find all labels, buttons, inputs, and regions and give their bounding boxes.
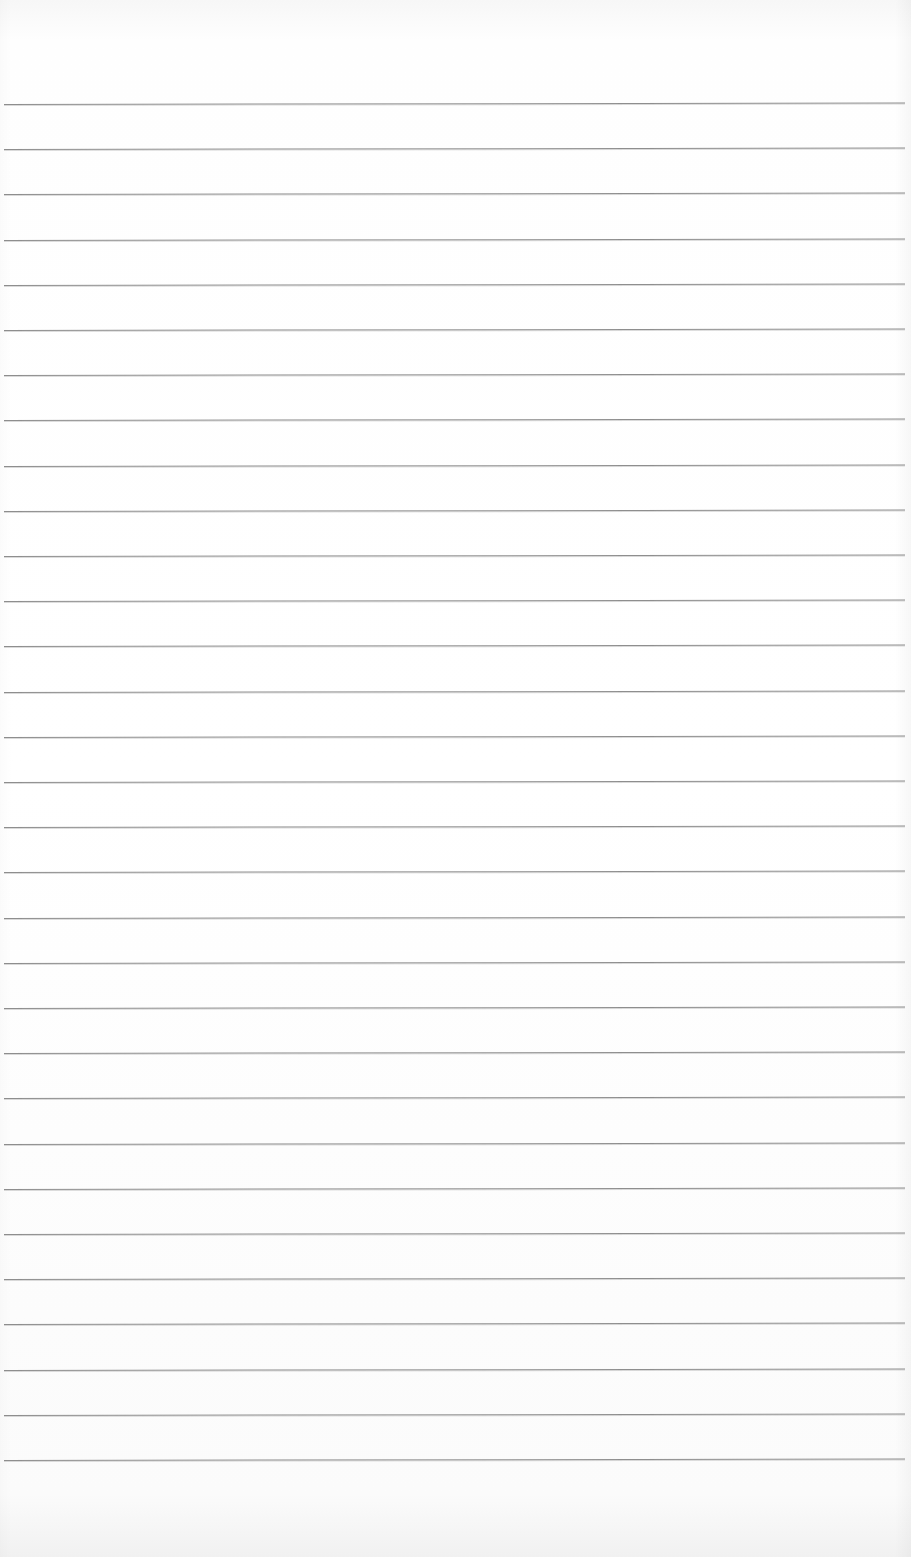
ruled-line: [4, 781, 905, 783]
ruled-line: [4, 1459, 905, 1461]
ruled-line: [4, 1323, 905, 1325]
ruled-line: [4, 148, 905, 150]
ruled-line: [4, 555, 905, 557]
ruled-line: [4, 1188, 905, 1190]
ruled-line: [4, 419, 905, 421]
ruled-line: [4, 1097, 905, 1099]
ruled-line: [4, 284, 905, 286]
ruled-line: [4, 645, 905, 647]
ruled-line: [4, 1052, 905, 1054]
ruled-line: [4, 1233, 905, 1235]
ruled-line: [4, 871, 905, 873]
ruled-line: [4, 917, 905, 919]
ruled-line: [4, 465, 905, 467]
ruled-line: [4, 1143, 905, 1145]
ruled-line: [4, 193, 905, 195]
ruled-line: [4, 736, 905, 738]
ruled-line: [4, 103, 905, 105]
ruled-line: [4, 329, 905, 331]
ruled-line: [4, 374, 905, 376]
ruled-line: [4, 691, 905, 693]
ruled-line: [4, 1414, 905, 1416]
ruled-line: [4, 1007, 905, 1009]
ruled-line: [4, 962, 905, 964]
ruled-line: [4, 239, 905, 241]
ruled-line: [4, 600, 905, 602]
ruled-line: [4, 510, 905, 512]
ruled-line: [4, 826, 905, 828]
ruled-paper-sheet: [0, 0, 911, 1557]
ruled-line: [4, 1278, 905, 1280]
ruled-line: [4, 1369, 905, 1371]
